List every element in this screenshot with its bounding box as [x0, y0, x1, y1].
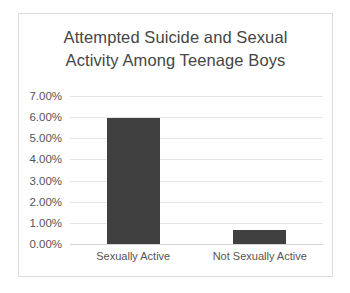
y-axis-tick-label: 5.00%: [29, 132, 62, 144]
x-axis-category-label: Not Sexually Active: [213, 250, 307, 262]
plot-area: 7.00%6.00%5.00%4.00%3.00%2.00%1.00%0.00%: [70, 96, 323, 244]
y-axis-tick-label: 2.00%: [29, 196, 62, 208]
y-axis-tick-label: 7.00%: [29, 90, 62, 102]
x-axis-category-label: Sexually Active: [96, 250, 170, 262]
category-axis: Sexually ActiveNot Sexually Active: [70, 250, 323, 270]
chart-container: Attempted Suicide and Sexual Activity Am…: [18, 13, 333, 277]
y-axis-tick-label: 4.00%: [29, 153, 62, 165]
bar: [107, 118, 160, 244]
bar: [233, 230, 286, 244]
y-axis-tick-label: 3.00%: [29, 175, 62, 187]
gridline: 7.00%: [70, 96, 323, 97]
y-axis-tick-label: 6.00%: [29, 111, 62, 123]
y-axis-tick-label: 0.00%: [29, 238, 62, 250]
y-axis-tick-label: 1.00%: [29, 217, 62, 229]
axis-baseline: 0.00%: [70, 244, 323, 245]
chart-title: Attempted Suicide and Sexual Activity Am…: [19, 26, 332, 72]
